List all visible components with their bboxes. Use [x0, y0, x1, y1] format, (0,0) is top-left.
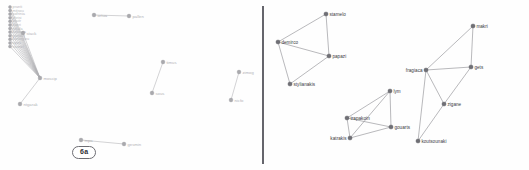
node-marker	[161, 60, 165, 64]
graph-node[interactable]: stack	[21, 31, 37, 36]
graph-node[interactable]: nicfo	[229, 98, 244, 103]
node-label: gesmin	[127, 142, 141, 147]
node-marker	[79, 138, 83, 142]
node-marker	[150, 91, 154, 95]
node-marker	[237, 70, 241, 74]
graph-edge	[471, 26, 473, 67]
node-label: sous	[155, 91, 164, 96]
node-label: zigane	[447, 102, 461, 107]
graph-node[interactable]: pallen	[127, 14, 144, 19]
graph-node[interactable]: koutsounaki	[416, 139, 447, 144]
node-marker	[324, 12, 328, 16]
graph-node[interactable]: moscip	[38, 76, 57, 81]
graph-edge	[426, 67, 471, 70]
node-marker	[471, 24, 475, 28]
stacked-node-marker[interactable]	[9, 5, 12, 8]
graph-edge	[350, 91, 390, 138]
node-marker	[288, 82, 292, 86]
node-label: ortua	[97, 13, 107, 18]
graph-edge	[418, 70, 426, 141]
node-label: lym	[393, 89, 400, 94]
graph-node[interactable]: gouarts	[389, 125, 411, 130]
node-marker	[18, 102, 22, 106]
graph-node[interactable]: mpa	[79, 138, 93, 143]
node-marker	[442, 102, 446, 106]
graph-edge	[347, 118, 350, 138]
node-marker	[21, 31, 25, 35]
node-group: ortuapallenmoscipntgarakstacktimussouszi…	[18, 13, 254, 147]
graph-node[interactable]: ntgarak	[18, 102, 38, 107]
node-marker	[424, 68, 428, 72]
graph-node[interactable]: gesmin	[122, 142, 142, 147]
node-label: gets	[474, 65, 484, 70]
node-marker	[469, 65, 473, 69]
node-label: timus	[166, 60, 176, 65]
node-label: ntgarak	[23, 102, 38, 107]
graph-node[interactable]: gets	[469, 65, 484, 70]
graph-node[interactable]: katrakis	[330, 136, 352, 141]
node-marker	[127, 14, 131, 18]
graph-edge	[426, 70, 444, 104]
node-label: makri	[476, 24, 487, 29]
graph-edge	[290, 56, 329, 84]
panel-divider	[262, 6, 264, 164]
node-label: mpa	[84, 138, 93, 143]
node-label: demirco	[281, 40, 298, 45]
node-marker	[389, 125, 393, 129]
node-marker	[122, 142, 126, 146]
node-marker	[327, 54, 331, 58]
node-marker	[416, 139, 420, 143]
graph-panel-6a: prantimitsousofriniachrisikoutrkopriniko…	[0, 0, 262, 170]
node-label: stylianakis	[293, 82, 315, 87]
graph-canvas-6b: stamelodemircopapazistylianakislymtrapak…	[266, 0, 529, 170]
graph-edge	[418, 104, 444, 141]
node-label: moscip	[43, 76, 57, 81]
node-label: pallen	[132, 14, 144, 19]
node-label: fragiaca	[406, 68, 423, 73]
node-label: trapakoin	[350, 116, 370, 121]
graph-node[interactable]: makri	[471, 24, 488, 29]
graph-panel-6b: stamelodemircopapazistylianakislymtrapak…	[266, 0, 529, 170]
graph-canvas-6a: prantimitsousofriniachrisikoutrkopriniko…	[0, 0, 262, 170]
stacked-label-group: prantimitsousofriniachrisikoutrkopriniko…	[9, 5, 41, 78]
graph-edge	[350, 127, 391, 138]
node-marker	[38, 76, 42, 80]
graph-edge	[278, 42, 290, 84]
node-group: stamelodemircopapazistylianakislymtrapak…	[276, 12, 488, 144]
edge-group	[278, 14, 473, 141]
graph-node[interactable]: lym	[388, 89, 401, 94]
figure-tag-6a: 6a	[72, 146, 96, 159]
node-marker	[348, 136, 352, 140]
node-label: katrakis	[330, 136, 347, 141]
graph-edge	[444, 67, 471, 104]
node-marker	[229, 98, 233, 102]
graph-node[interactable]: timus	[161, 60, 177, 65]
graph-node[interactable]: zimog	[237, 70, 254, 75]
node-label: papazi	[332, 54, 346, 59]
graph-node[interactable]: trapakoin	[345, 116, 370, 121]
graph-edge	[278, 14, 326, 42]
graph-node[interactable]: stamelo	[324, 12, 346, 17]
node-marker	[92, 13, 96, 17]
graph-node[interactable]: fragiaca	[406, 68, 428, 73]
node-marker	[276, 40, 280, 44]
graph-edge	[20, 78, 40, 104]
node-label: stack	[26, 31, 37, 36]
node-marker	[345, 116, 349, 120]
graph-node[interactable]: demirco	[276, 40, 299, 45]
graph-edge	[231, 72, 239, 100]
graph-node[interactable]: sous	[150, 91, 164, 96]
node-label: koutsounaki	[421, 139, 446, 144]
graph-node[interactable]: papazi	[327, 54, 346, 59]
graph-edge	[152, 62, 163, 93]
figure-container: prantimitsousofriniachrisikoutrkopriniko…	[0, 0, 529, 170]
node-marker	[388, 89, 392, 93]
node-label: stamelo	[329, 12, 346, 17]
graph-node[interactable]: zigane	[442, 102, 462, 107]
graph-node[interactable]: ortua	[92, 13, 108, 18]
stacked-node-label: stamel	[13, 45, 24, 49]
graph-edge	[426, 26, 473, 70]
graph-edge	[326, 14, 329, 56]
node-label: nicfo	[234, 98, 244, 103]
node-label: zimog	[242, 70, 254, 75]
